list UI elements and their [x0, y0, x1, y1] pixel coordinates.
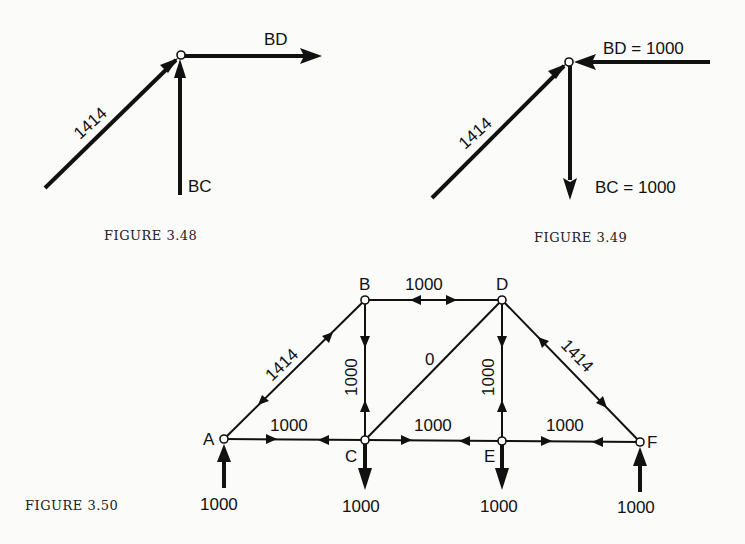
horizontal-force-label: BD [264, 30, 288, 49]
load-label-c: 1000 [342, 497, 380, 516]
arrowhead-icon [495, 468, 509, 490]
force-label-bd: 1000 [405, 275, 443, 294]
node-label-e: E [484, 447, 495, 466]
node-label-d: D [496, 275, 508, 294]
arrowhead-icon [563, 178, 577, 200]
arrowhead-icon [360, 400, 370, 412]
arrowhead-icon [358, 468, 372, 490]
arrowhead-icon [410, 295, 421, 305]
arrowhead-icon [633, 447, 647, 466]
figure-3-48: 1414 BD BC FIGURE 3.48 [45, 30, 322, 243]
diagram-canvas: 1414 BD BC FIGURE 3.48 1414 BD = 1000 BC… [0, 0, 745, 544]
figure-3-49: 1414 BD = 1000 BC = 1000 FIGURE 3.49 [432, 39, 710, 245]
node-b [361, 296, 369, 304]
arrowhead-icon [592, 437, 603, 447]
arrowhead-icon [446, 295, 457, 305]
node-e [498, 437, 506, 445]
diagonal-force-label: 1414 [455, 114, 496, 153]
node-a [220, 435, 228, 443]
joint-node [565, 58, 573, 66]
load-label-f: 1000 [617, 498, 655, 517]
arrowhead-icon [266, 434, 277, 444]
vertical-force-label: BC [188, 177, 212, 196]
load-label-e: 1000 [480, 497, 518, 516]
diagonal-force-arrow [45, 60, 176, 188]
arrowhead-icon [497, 336, 507, 348]
member-ac [224, 439, 365, 440]
node-label-a: A [203, 430, 215, 449]
node-label-b: B [359, 275, 370, 294]
member-ce [365, 440, 502, 441]
figure-page: 1414 BD BC FIGURE 3.48 1414 BD = 1000 BC… [0, 0, 745, 544]
figure-3-50: A B C D E F 1414 1000 1000 0 1000 1414 1… [25, 275, 657, 517]
node-c [361, 436, 369, 444]
force-label-ac: 1000 [270, 416, 308, 435]
member-ef [502, 441, 640, 442]
diagonal-force-label: 1414 [70, 104, 111, 143]
arrowhead-icon [360, 336, 370, 348]
load-label-a: 1000 [200, 495, 238, 514]
figure-caption: FIGURE 3.48 [104, 228, 197, 243]
arrowhead-icon [401, 435, 412, 445]
force-label-df: 1414 [557, 336, 597, 376]
arrowhead-icon [541, 436, 552, 446]
diagonal-force-arrow [432, 66, 564, 198]
force-label-bc: 1000 [342, 358, 361, 396]
node-f [636, 438, 644, 446]
figure-caption: FIGURE 3.50 [25, 498, 118, 513]
joint-node [177, 51, 185, 59]
figure-caption: FIGURE 3.49 [534, 230, 627, 245]
arrowhead-icon [497, 400, 507, 412]
force-label-ab: 1414 [262, 345, 302, 385]
arrowhead-icon [318, 435, 329, 445]
force-label-cd: 0 [425, 350, 434, 369]
horizontal-force-label: BD = 1000 [603, 39, 684, 58]
force-label-de: 1000 [479, 358, 498, 396]
force-label-ef: 1000 [546, 416, 584, 435]
force-label-ce: 1000 [414, 416, 452, 435]
vertical-force-label: BC = 1000 [595, 178, 676, 197]
node-d [498, 296, 506, 304]
arrowhead-icon [217, 444, 231, 462]
node-label-f: F [647, 433, 657, 452]
arrowhead-icon [459, 436, 470, 446]
node-label-c: C [345, 447, 357, 466]
